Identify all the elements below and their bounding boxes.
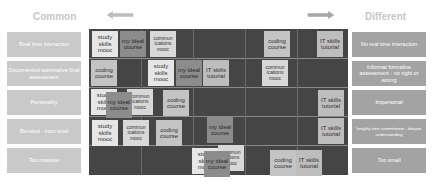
- side-left-row-1: Real time interaction: [7, 32, 81, 57]
- side-right-row-2: Informal formative assessment - no right…: [352, 61, 426, 86]
- column-divider: [245, 29, 246, 175]
- card-comm[interactable]: commun ications mooc: [123, 120, 149, 146]
- arrow-left-icon: [105, 11, 135, 19]
- card-comm[interactable]: commun ications mooc: [262, 60, 288, 86]
- card-code[interactable]: coding course: [270, 150, 296, 176]
- card-code[interactable]: coding course: [264, 31, 290, 57]
- card-study[interactable]: study skills mooc: [92, 31, 118, 57]
- heading-common: Common: [33, 11, 76, 22]
- card-it[interactable]: IT skills tutorial: [203, 60, 229, 86]
- arrow-right-icon: [306, 11, 336, 19]
- side-left-row-5: Too massive: [7, 148, 81, 173]
- card-code[interactable]: coding course: [156, 120, 182, 146]
- card-study[interactable]: study skills mooc: [92, 120, 118, 146]
- side-left-row-2: Documented summative final assessment: [7, 61, 81, 86]
- side-right-row-1: No real time interaction: [352, 32, 426, 57]
- card-ideal[interactable]: my ideal course: [176, 60, 202, 86]
- card-it[interactable]: IT skills tutorial: [296, 150, 322, 176]
- card-study[interactable]: study skills mooc: [148, 60, 174, 86]
- side-left-row-4: Blended - intro level: [7, 119, 81, 144]
- side-left-row-3: Personality: [7, 90, 81, 115]
- card-ideal[interactable]: my ideal course: [207, 117, 233, 143]
- card-it[interactable]: IT skills tutorial: [318, 118, 344, 144]
- card-code[interactable]: coding course: [91, 60, 117, 86]
- card-ideal[interactable]: my ideal course: [106, 92, 132, 118]
- row-divider: [89, 87, 348, 88]
- card-code[interactable]: coding course: [163, 90, 189, 116]
- card-it[interactable]: IT skills tutorial: [317, 31, 343, 57]
- row-divider: [89, 58, 348, 59]
- card-comm[interactable]: commun ications mooc: [150, 31, 176, 57]
- side-right-row-4: lengthy time commitment - deeper underst…: [352, 119, 426, 144]
- heading-different: Different: [365, 11, 406, 22]
- card-ideal[interactable]: my ideal course: [204, 151, 230, 177]
- side-right-row-3: Impersonal: [352, 90, 426, 115]
- card-ideal[interactable]: my ideal course: [120, 31, 146, 57]
- side-right-row-5: Too small: [352, 148, 426, 173]
- card-it[interactable]: IT skills tutorial: [318, 90, 344, 116]
